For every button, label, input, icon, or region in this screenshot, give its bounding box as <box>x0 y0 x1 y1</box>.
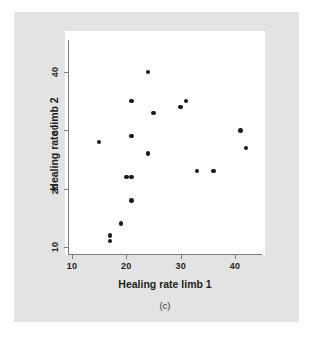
x-tick-mark <box>235 255 236 259</box>
x-tick-label: 40 <box>230 261 240 271</box>
plot-canvas <box>65 31 265 255</box>
y-tick-mark <box>64 189 68 190</box>
x-tick-label: 30 <box>175 261 185 271</box>
y-tick-mark <box>64 130 68 131</box>
figure-caption: (c) <box>68 300 262 311</box>
y-tick-mark <box>64 72 68 73</box>
y-axis-title: Healing rate limb 2 <box>48 44 60 244</box>
x-axis-line <box>68 254 262 255</box>
data-point <box>124 175 129 180</box>
x-tick-mark <box>72 255 73 259</box>
x-tick-mark <box>181 255 182 259</box>
y-tick-mark <box>64 247 68 248</box>
scatter-plot-figure: 10203040 10203040 Healing rate limb 1 He… <box>0 0 313 342</box>
x-tick-label: 10 <box>67 261 77 271</box>
data-point <box>211 169 216 174</box>
data-point <box>238 128 243 133</box>
data-point <box>119 221 124 226</box>
x-axis-title: Healing rate limb 1 <box>68 278 262 290</box>
data-point <box>129 198 134 203</box>
x-tick-label: 20 <box>121 261 131 271</box>
data-point <box>151 111 156 116</box>
x-tick-mark <box>126 255 127 259</box>
y-axis-line <box>68 40 69 255</box>
data-point <box>108 233 113 238</box>
